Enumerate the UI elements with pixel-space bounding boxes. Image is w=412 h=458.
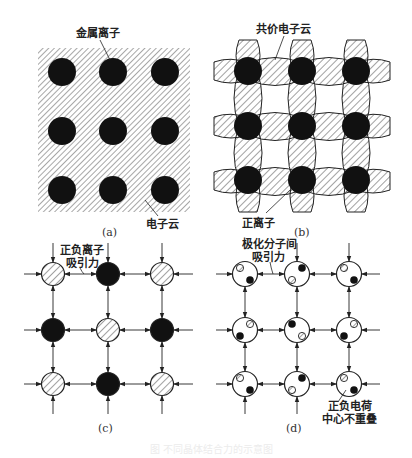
polar-molecule-grid	[233, 262, 362, 397]
label-charge-center-line2: 中心不重叠	[322, 412, 377, 426]
polar-molecule	[337, 372, 362, 397]
ion-grid-c	[42, 263, 174, 396]
label-covalent-cloud: 共价电子云	[256, 22, 311, 36]
label-charge-center-line1: 正负电荷	[328, 399, 372, 413]
panel-c-ionic	[24, 243, 193, 414]
caption-d: (d)	[286, 422, 302, 435]
label-electron-cloud: 电子云	[146, 217, 179, 231]
positive-ion	[97, 263, 120, 286]
positive-ion	[42, 319, 65, 342]
polar-molecule	[285, 318, 310, 343]
panel-b-covalent: 共价电子云 正离子 (b)	[214, 22, 390, 239]
polar-molecule	[337, 318, 362, 343]
leader-line-covalent	[275, 36, 284, 60]
negative-ion	[42, 263, 65, 286]
negative-ion	[151, 263, 174, 286]
label-polar-attraction-line2: 吸引力	[252, 250, 285, 264]
label-ionic-attraction-line1: 正负离子	[60, 243, 104, 257]
polar-molecule	[233, 262, 258, 287]
label-metal-ion: 金属离子	[75, 26, 120, 40]
label-ionic-attraction-line2: 吸引力	[66, 256, 99, 270]
crystal-bonding-figure: 金属离子 电子云 (a)	[0, 0, 412, 458]
label-polar-attraction-line1: 极化分子间	[242, 237, 297, 251]
positive-ion	[97, 373, 120, 396]
panel-d-molecular	[216, 243, 380, 414]
caption-a: (a)	[102, 226, 117, 239]
polar-molecule	[285, 372, 310, 397]
polar-molecule	[233, 372, 258, 397]
metal-ion-grid	[48, 58, 179, 204]
negative-ion	[42, 373, 65, 396]
negative-ion	[97, 319, 120, 342]
positive-ion-grid	[234, 57, 370, 194]
polar-molecule	[285, 262, 310, 287]
figure-caption-faint: 图 不同晶体结合力的示意图	[150, 443, 273, 455]
positive-ion	[151, 319, 174, 342]
panel-a-metallic: 金属离子 电子云 (a)	[38, 26, 190, 239]
polar-molecule	[233, 318, 258, 343]
label-positive-ion: 正离子	[242, 216, 275, 230]
polar-molecule	[337, 262, 362, 287]
caption-c: (c)	[98, 422, 113, 435]
negative-ion	[151, 373, 174, 396]
